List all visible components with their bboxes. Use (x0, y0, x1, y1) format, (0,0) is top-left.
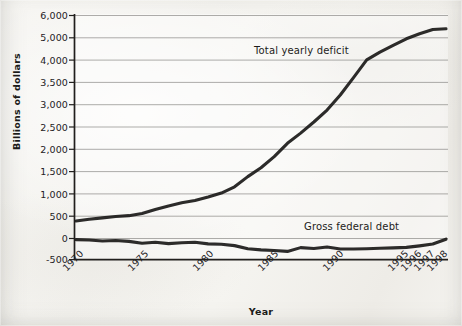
x-axis-title: Year (74, 306, 448, 317)
series-annotation-total-yearly-deficit: Total yearly deficit (254, 45, 349, 56)
x-tick-label: 1980 (191, 249, 215, 273)
x-axis-tick-label-group: 1970 1975 1980 1985 1990 1995 1996 1997 … (0, 0, 462, 326)
x-tick-label: 1985 (256, 249, 280, 273)
x-tick-label: 1990 (321, 249, 345, 273)
series-annotation-gross-federal-debt: Gross federal debt (304, 221, 399, 232)
figure-page: 6,000 5,000 4,000 3,500 3,000 2,500 2,00… (0, 0, 462, 326)
x-tick-label: 1975 (126, 249, 150, 273)
x-tick-label: 1970 (61, 249, 85, 273)
